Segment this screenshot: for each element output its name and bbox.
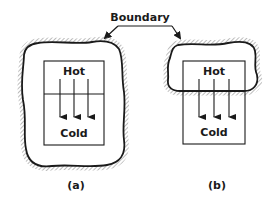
boundary-diagram: Boundary Hot Cold (a) Hot Cold (b) xyxy=(0,0,275,204)
cold-label-b: Cold xyxy=(200,126,227,139)
hot-label-a: Hot xyxy=(63,65,85,78)
boundary-label: Boundary xyxy=(110,11,170,24)
panel-b: Hot Cold (b) xyxy=(166,40,260,192)
boundary-a xyxy=(22,41,125,166)
boundary-callout: Boundary xyxy=(105,11,180,38)
leader-arrow-left xyxy=(105,26,118,38)
hot-label-b: Hot xyxy=(203,65,225,78)
caption-b: (b) xyxy=(208,179,226,192)
leader-arrow-right xyxy=(172,26,180,38)
cold-label-a: Cold xyxy=(60,127,87,140)
caption-a: (a) xyxy=(67,179,84,192)
panel-a: Hot Cold (a) xyxy=(20,39,127,192)
